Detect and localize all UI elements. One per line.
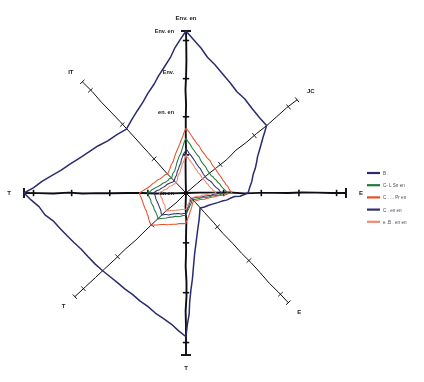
radar-axis-spoke-3	[186, 193, 288, 303]
radar-tick-label-1: Env.	[163, 69, 175, 75]
radar-axis-spoke-0	[185, 31, 186, 193]
radar-tick-label-3: en en	[160, 190, 175, 196]
radar-axis-label-5: T	[62, 303, 66, 309]
radar-axis-spoke-7	[82, 82, 186, 193]
radar-axis-label-3: E	[297, 309, 301, 315]
radar-axes-layer	[24, 31, 346, 355]
radar-series-polygon-4	[160, 155, 216, 212]
radar-tick-label-2: en. en	[158, 109, 175, 115]
radar-axis-label-6: T	[7, 190, 11, 196]
radar-axis-spoke-2	[186, 193, 346, 194]
radar-tick-label-0: Env. en	[155, 28, 175, 34]
radar-axis-label-1: JC	[307, 88, 315, 94]
radar-chart-figure: Env. enJCEETTTIT Env. enEnv.en. enen en …	[0, 0, 424, 382]
legend-label-4[interactable]: e .B . en en	[383, 220, 407, 225]
legend-label-1[interactable]: C- L Sn en	[383, 183, 405, 188]
radar-axis-label-4: T	[184, 365, 188, 371]
radar-axis-spoke-5	[75, 193, 186, 297]
radar-series-layer	[24, 31, 267, 337]
radar-chart-canvas: Env. enJCEETTTIT Env. enEnv.en. enen en …	[0, 0, 424, 382]
radar-series-polygon-0	[24, 31, 267, 337]
legend-label-0[interactable]: B .	[383, 171, 389, 176]
radar-axis-label-2: E	[359, 190, 363, 196]
chart-legend[interactable]: B .C- L Sn enC . ... Pr enC . en ene .B …	[367, 171, 407, 225]
radar-axis-label-7: IT	[68, 69, 74, 75]
legend-label-3[interactable]: C . en en	[383, 208, 402, 213]
legend-label-2[interactable]: C . ... Pr en	[383, 195, 407, 200]
radar-axis-label-0: Env. en	[176, 15, 197, 21]
